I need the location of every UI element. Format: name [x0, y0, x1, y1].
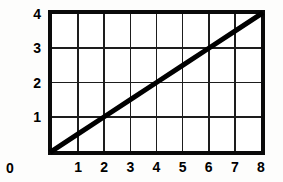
y-axis-tick-label: 3 — [25, 41, 41, 55]
x-axis-tick-label: 2 — [100, 160, 108, 174]
x-axis-tick-label: 3 — [126, 160, 134, 174]
x-axis-tick-label: 7 — [231, 160, 239, 174]
plot-area — [48, 10, 265, 155]
chart-container: 123456781234 0 — [0, 0, 283, 182]
x-axis-tick-label: 8 — [257, 160, 265, 174]
y-axis-tick-label: 1 — [25, 110, 41, 124]
y-axis-tick-label: 2 — [25, 76, 41, 90]
y-axis-tick-label: 4 — [25, 7, 41, 21]
line-series — [52, 14, 261, 151]
x-axis-tick-label: 4 — [153, 160, 161, 174]
origin-tick-label: 0 — [6, 161, 14, 175]
x-axis-tick-label: 6 — [205, 160, 213, 174]
series-polyline — [52, 14, 261, 151]
x-axis-tick-label: 5 — [179, 160, 187, 174]
data-series-layer — [52, 14, 261, 151]
x-axis-tick-label: 1 — [74, 160, 82, 174]
